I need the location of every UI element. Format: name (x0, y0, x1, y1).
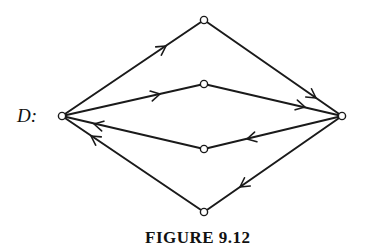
edge-right-to-bottom (204, 116, 342, 212)
directed-graph-diagram: D: FIGURE 9.12 (0, 0, 366, 252)
edge-bottom-to-left (62, 116, 204, 212)
edge-lower-mid-to-left (62, 116, 204, 149)
node-right (338, 112, 345, 119)
node-left (58, 112, 65, 119)
edge-upper-mid-to-right (204, 84, 342, 116)
edge-right-to-lower-mid (204, 116, 342, 149)
edge-left-to-top (62, 20, 204, 116)
node-upper-mid (200, 80, 207, 87)
graph-label: D: (16, 105, 37, 126)
edge-top-to-right (204, 20, 342, 116)
edge-left-to-upper-mid (62, 84, 204, 116)
node-lower-mid (200, 145, 207, 152)
node-top (200, 16, 207, 23)
figure-caption: FIGURE 9.12 (145, 228, 251, 247)
node-bottom (200, 208, 207, 215)
